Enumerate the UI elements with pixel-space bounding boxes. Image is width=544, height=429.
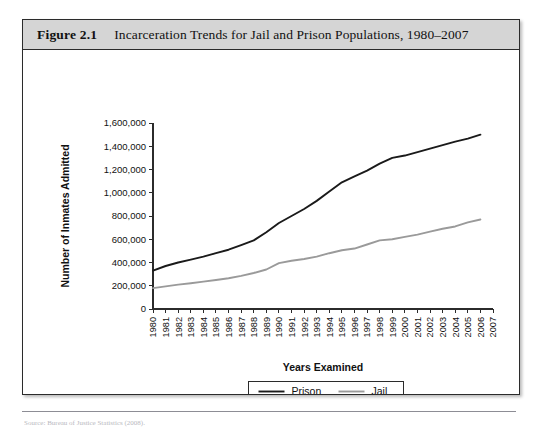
y-tick-label: 600,000	[112, 234, 146, 245]
x-tick-label: 1994	[325, 317, 335, 337]
y-axis-ticks: 0200,000400,000600,000800,0001,000,0001,…	[104, 117, 153, 314]
x-tick-label: 1993	[312, 317, 322, 337]
figure-title-band: Figure 2.1 Incarceration Trends for Jail…	[23, 20, 519, 50]
series-line-prison	[153, 135, 480, 271]
legend-label-prison: Prison	[292, 385, 322, 394]
x-tick-label: 1996	[350, 317, 360, 337]
x-tick-label: 1995	[337, 317, 347, 337]
x-tick-label: 1999	[388, 317, 398, 337]
x-tick-label: 1982	[174, 317, 184, 337]
y-tick-label: 200,000	[112, 280, 146, 291]
x-axis-title: Years Examined	[283, 361, 364, 373]
data-series-group	[153, 135, 480, 288]
x-tick-label: 1997	[362, 317, 372, 337]
x-tick-label: 1986	[224, 317, 234, 337]
figure-container: Figure 2.1 Incarceration Trends for Jail…	[22, 19, 520, 395]
y-tick-label: 1,200,000	[104, 164, 146, 175]
page-divider-rule	[22, 411, 516, 412]
x-tick-label: 2005	[463, 317, 473, 337]
x-tick-label: 1984	[199, 317, 209, 337]
y-tick-label: 0	[141, 303, 146, 314]
y-axis-title: Number of Inmates Admitted	[59, 144, 71, 287]
x-tick-label: 2000	[400, 317, 410, 337]
x-axis-ticks: 1980198119821983198419851986198719881989…	[148, 309, 498, 337]
y-tick-label: 1,600,000	[104, 117, 146, 128]
x-tick-label: 1998	[375, 317, 385, 337]
x-tick-label: 1980	[148, 317, 158, 337]
x-tick-label: 2004	[451, 317, 461, 337]
x-tick-label: 1992	[300, 317, 310, 337]
x-tick-label: 2006	[476, 317, 486, 337]
y-tick-label: 800,000	[112, 210, 146, 221]
y-tick-label: 1,000,000	[104, 187, 146, 198]
x-tick-label: 1985	[211, 317, 221, 337]
figure-caption: Incarceration Trends for Jail and Prison…	[114, 27, 468, 43]
series-line-jail	[153, 219, 480, 288]
line-chart: 0200,000400,000600,000800,0001,000,0001,…	[23, 50, 519, 394]
x-tick-label: 1981	[161, 317, 171, 337]
x-tick-label: 2007	[488, 317, 498, 337]
y-tick-label: 1,400,000	[104, 141, 146, 152]
x-tick-label: 1988	[249, 317, 259, 337]
x-tick-label: 1987	[237, 317, 247, 337]
y-tick-label: 400,000	[112, 257, 146, 268]
x-tick-label: 2003	[438, 317, 448, 337]
x-tick-label: 1991	[287, 317, 297, 337]
x-tick-label: 2001	[413, 317, 423, 337]
figure-number-label: Figure 2.1	[37, 27, 97, 43]
source-note: Source: Bureau of Justice Statistics (20…	[24, 419, 324, 429]
x-tick-label: 2002	[425, 317, 435, 337]
legend-label-jail: Jail	[372, 385, 388, 394]
chart-legend: PrisonJail	[249, 381, 404, 394]
x-tick-label: 1983	[186, 317, 196, 337]
x-tick-label: 1990	[274, 317, 284, 337]
chart-plot-area: 0200,000400,000600,000800,0001,000,0001,…	[23, 50, 519, 394]
x-tick-label: 1989	[262, 317, 272, 337]
